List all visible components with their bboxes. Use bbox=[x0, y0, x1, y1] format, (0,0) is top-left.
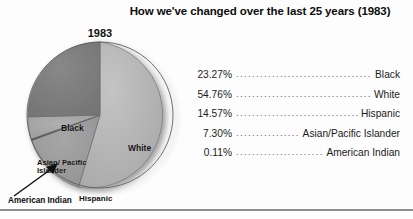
legend: 23.27% .................................… bbox=[186, 69, 400, 167]
page-title: How we've changed over the last 25 years… bbox=[112, 5, 408, 17]
legend-label: Hispanic bbox=[361, 108, 400, 119]
legend-row: 23.27% .................................… bbox=[186, 69, 400, 89]
legend-row: 54.76% .................................… bbox=[186, 89, 400, 109]
legend-row: 7.30% ................. Asian/Pacific Is… bbox=[186, 128, 400, 148]
pie-chart: White Black Hispanic Asian/ Pacific Isla… bbox=[16, 36, 192, 200]
legend-percent: 54.76% bbox=[186, 89, 232, 100]
pie-chart-svg bbox=[16, 36, 192, 200]
legend-leader: ................. bbox=[236, 127, 300, 138]
legend-leader: ...................................... bbox=[236, 107, 358, 118]
pie-slice-label-hispanic: Hispanic bbox=[79, 195, 112, 203]
legend-row: 14.57% .................................… bbox=[186, 108, 400, 128]
pie-slice-label-white: White bbox=[128, 144, 151, 153]
pie-slice-label-black: Black bbox=[61, 124, 84, 133]
legend-row: 0.11% ......................... American… bbox=[186, 147, 400, 167]
footer-divider bbox=[0, 209, 413, 211]
pie-slice-label-asian-pacific-islander: Asian/ Pacific Islander bbox=[37, 159, 87, 174]
legend-percent: 7.30% bbox=[186, 128, 232, 139]
legend-label: American Indian bbox=[326, 147, 400, 158]
legend-percent: 0.11% bbox=[186, 147, 232, 158]
pie-slice-black bbox=[28, 42, 100, 117]
legend-label: Asian/Pacific Islander bbox=[303, 128, 400, 139]
callout-label-american-indian: American Indian bbox=[8, 196, 72, 205]
legend-percent: 14.57% bbox=[186, 108, 232, 119]
legend-leader: ......................... bbox=[236, 146, 323, 157]
legend-leader: ........................................… bbox=[236, 68, 372, 79]
legend-label: White bbox=[374, 89, 400, 100]
legend-label: Black bbox=[375, 69, 400, 80]
legend-leader: ........................................… bbox=[236, 88, 371, 99]
legend-percent: 23.27% bbox=[186, 69, 232, 80]
chart-figure: How we've changed over the last 25 years… bbox=[0, 0, 413, 219]
